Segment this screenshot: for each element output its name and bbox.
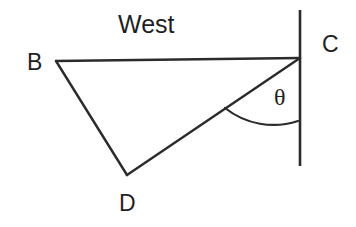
angle-arc-theta [225,108,298,125]
segment-DC [127,58,300,175]
figure-canvas [0,0,356,227]
segment-BD [56,61,127,175]
vertex-label-b: B [27,51,42,74]
direction-label-west: West [118,12,175,37]
segment-BC [56,58,300,61]
angle-label-theta: θ [274,85,286,109]
vertex-label-c: C [322,33,339,56]
vertex-label-d: D [119,192,136,215]
geometry-figure: B C D West θ [0,0,356,227]
